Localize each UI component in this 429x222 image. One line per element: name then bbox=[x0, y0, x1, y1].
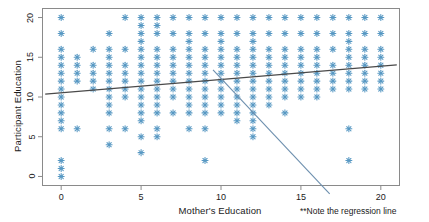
data-point-marker bbox=[90, 86, 96, 92]
y-tick-label: 10 bbox=[25, 92, 35, 102]
data-point-marker bbox=[282, 62, 288, 68]
data-point-marker bbox=[106, 70, 112, 76]
data-point-marker bbox=[250, 126, 256, 132]
data-point-marker bbox=[138, 30, 144, 36]
data-point-marker bbox=[314, 30, 320, 36]
data-point-marker bbox=[186, 110, 192, 116]
data-point-marker bbox=[138, 102, 144, 108]
data-point-marker bbox=[122, 78, 128, 84]
data-point-marker bbox=[266, 94, 272, 100]
data-point-marker bbox=[234, 70, 240, 76]
data-point-marker bbox=[154, 110, 160, 116]
data-point-marker bbox=[122, 94, 128, 100]
data-point-marker bbox=[58, 30, 64, 36]
data-point-marker bbox=[106, 30, 112, 36]
data-point-marker bbox=[282, 54, 288, 60]
data-point-marker bbox=[282, 94, 288, 100]
data-point-marker bbox=[250, 62, 256, 68]
data-point-marker bbox=[234, 110, 240, 116]
data-point-marker bbox=[234, 118, 240, 124]
data-point-marker bbox=[250, 70, 256, 76]
data-point-marker bbox=[266, 54, 272, 60]
data-point-marker bbox=[186, 38, 192, 44]
data-point-marker bbox=[170, 86, 176, 92]
data-point-marker bbox=[154, 126, 160, 132]
scatter-plot-figure: Participant Education Mother's Education… bbox=[0, 0, 429, 222]
data-point-marker bbox=[186, 126, 192, 132]
plot-canvas bbox=[0, 0, 429, 222]
data-point-marker bbox=[218, 54, 224, 60]
data-point-marker bbox=[106, 62, 112, 68]
data-point-marker bbox=[250, 15, 256, 21]
data-point-marker bbox=[234, 102, 240, 108]
data-point-marker bbox=[138, 46, 144, 52]
data-point-marker bbox=[154, 15, 160, 21]
data-point-marker bbox=[58, 110, 64, 116]
data-point-marker bbox=[250, 54, 256, 60]
data-point-marker bbox=[170, 110, 176, 116]
data-point-marker bbox=[378, 46, 384, 52]
data-point-marker bbox=[314, 94, 320, 100]
data-point-marker bbox=[378, 70, 384, 76]
data-point-marker bbox=[218, 94, 224, 100]
data-point-marker bbox=[330, 15, 336, 21]
data-point-marker bbox=[122, 126, 128, 132]
data-point-marker bbox=[250, 102, 256, 108]
data-point-marker bbox=[58, 126, 64, 132]
data-point-marker bbox=[74, 126, 80, 132]
data-point-marker bbox=[234, 46, 240, 52]
data-point-marker bbox=[346, 70, 352, 76]
data-point-marker bbox=[202, 30, 208, 36]
data-point-marker bbox=[154, 78, 160, 84]
data-point-marker bbox=[234, 78, 240, 84]
data-point-marker bbox=[58, 70, 64, 76]
data-point-marker bbox=[234, 62, 240, 68]
data-point-marker bbox=[282, 70, 288, 76]
data-point-marker bbox=[58, 78, 64, 84]
data-point-marker bbox=[378, 78, 384, 84]
data-point-marker bbox=[298, 46, 304, 52]
data-point-marker bbox=[346, 38, 352, 44]
data-point-marker bbox=[74, 62, 80, 68]
data-point-marker bbox=[106, 102, 112, 108]
data-point-marker bbox=[218, 86, 224, 92]
regression-note-annotation: **Note the regression line bbox=[300, 206, 396, 216]
data-point-marker bbox=[346, 86, 352, 92]
data-point-marker bbox=[218, 110, 224, 116]
data-point-marker bbox=[362, 54, 368, 60]
data-point-marker bbox=[234, 30, 240, 36]
y-tick-label: 5 bbox=[30, 132, 35, 142]
data-point-marker bbox=[90, 70, 96, 76]
data-point-marker bbox=[186, 54, 192, 60]
data-point-marker bbox=[202, 62, 208, 68]
data-point-marker bbox=[234, 86, 240, 92]
data-point-marker bbox=[170, 30, 176, 36]
data-point-marker bbox=[218, 46, 224, 52]
data-point-marker bbox=[346, 158, 352, 164]
data-point-marker bbox=[202, 94, 208, 100]
data-point-marker bbox=[346, 30, 352, 36]
data-point-marker bbox=[154, 22, 160, 28]
data-point-marker bbox=[282, 46, 288, 52]
data-point-marker bbox=[330, 46, 336, 52]
data-point-marker bbox=[298, 78, 304, 84]
data-point-marker bbox=[250, 86, 256, 92]
data-point-marker bbox=[250, 46, 256, 52]
data-point-marker bbox=[138, 78, 144, 84]
data-point-marker bbox=[138, 54, 144, 60]
data-point-marker bbox=[122, 70, 128, 76]
data-point-marker bbox=[202, 54, 208, 60]
data-point-marker bbox=[106, 142, 112, 148]
data-point-marker bbox=[154, 70, 160, 76]
data-point-marker bbox=[154, 46, 160, 52]
data-point-marker bbox=[314, 46, 320, 52]
data-point-marker bbox=[58, 118, 64, 124]
data-point-marker bbox=[298, 54, 304, 60]
data-point-marker bbox=[170, 15, 176, 21]
x-tick-label: 5 bbox=[139, 192, 144, 202]
data-point-marker bbox=[186, 70, 192, 76]
data-point-marker bbox=[74, 78, 80, 84]
data-point-marker bbox=[58, 94, 64, 100]
data-point-marker bbox=[314, 86, 320, 92]
data-point-marker bbox=[90, 46, 96, 52]
